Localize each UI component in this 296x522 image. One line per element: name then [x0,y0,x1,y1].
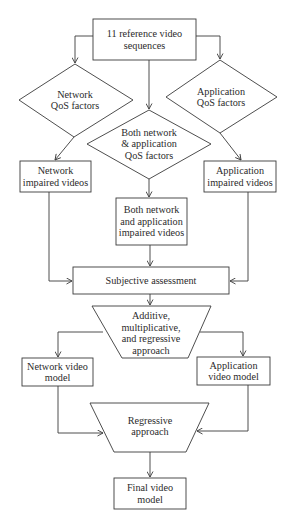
network-model-label: Network video model [22,358,93,386]
both-impaired-label: Both network and application impaired vi… [116,198,187,245]
additive-line-2: multiplicative, [121,322,180,334]
edge-additive-network-model [58,332,103,357]
additive-label: Additive, multiplicative, and regressive… [102,308,200,358]
both-qos-label: Both network & application QoS factors [104,126,194,162]
application-qos-label: Application QoS factors [176,83,266,111]
edge-reference-network-qos [75,36,93,63]
final-line-1: Final video [127,482,173,494]
reference-line-2: sequences [124,40,165,52]
network-qos-line-2: QoS factors [51,100,99,112]
network-qos-label: Network QoS factors [30,86,120,114]
network-impaired-line-2: impaired videos [23,177,88,189]
regressive-label: Regressive approach [100,412,200,440]
regressive-line-2: approach [131,426,168,438]
regressive-line-1: Regressive [128,415,173,427]
flowchart-canvas [0,0,296,522]
additive-line-3: and regressive [122,333,181,345]
application-model-label: Application video model [197,357,270,385]
both-impaired-line-2: and application [120,216,183,228]
both-impaired-line-1: Both network [124,204,180,216]
both-qos-line-1: Both network [121,127,177,139]
subjective-line-1: Subjective assessment [106,275,197,287]
network-impaired-label: Network impaired videos [20,161,91,192]
both-qos-line-2: & application [121,138,177,150]
network-impaired-line-1: Network [38,165,74,177]
final-line-2: model [137,494,162,506]
reference-label: 11 reference video sequences [93,19,196,60]
additive-line-4: approach [132,345,169,357]
edge-application-impaired-subjective [230,192,248,281]
edge-network-impaired-subjective [49,192,72,281]
application-model-line-1: Application [209,360,257,372]
application-impaired-line-1: Application [216,165,264,177]
final-label: Final video model [114,478,186,509]
both-qos-line-3: QoS factors [125,150,173,162]
edge-additive-application-model [200,332,243,356]
application-model-line-2: video model [208,371,259,383]
additive-line-1: Additive, [132,310,170,322]
edge-reference-application-qos [196,36,220,59]
network-model-line-1: Network video [27,361,88,373]
network-model-line-2: model [45,372,70,384]
edge-application-qos-impaired [220,133,241,160]
application-impaired-line-2: impaired videos [207,177,272,189]
both-impaired-line-3: impaired videos [119,227,184,239]
edge-network-qos-impaired [55,137,74,160]
reference-line-1: 11 reference video [107,28,182,40]
network-qos-line-1: Network [57,89,93,101]
subjective-label: Subjective assessment [73,267,229,294]
application-qos-line-2: QoS factors [197,97,245,109]
application-impaired-label: Application impaired videos [204,161,276,192]
application-qos-line-1: Application [197,86,245,98]
